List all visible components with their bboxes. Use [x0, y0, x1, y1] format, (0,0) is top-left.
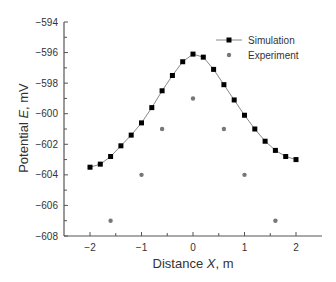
simulation-point	[118, 143, 123, 148]
simulation-point	[98, 162, 103, 167]
experiment-point	[222, 127, 226, 131]
experiment-point	[191, 96, 195, 100]
experiment-point	[273, 219, 277, 223]
y-tick-label: −604	[35, 169, 58, 180]
experiment-point	[160, 127, 164, 131]
x-tick-label: −1	[136, 242, 148, 253]
simulation-point	[129, 133, 134, 138]
simulation-point	[221, 82, 226, 87]
y-tick-label: −596	[35, 47, 58, 58]
y-tick-label: −602	[35, 139, 58, 150]
simulation-point	[252, 127, 257, 132]
experiment-point	[242, 173, 246, 177]
simulation-point	[263, 139, 268, 144]
legend-experiment-label: Experiment	[248, 50, 299, 61]
simulation-point	[160, 88, 165, 93]
simulation-point	[170, 73, 175, 78]
simulation-point	[273, 148, 278, 153]
experiment-point	[108, 219, 112, 223]
simulation-point	[108, 154, 113, 159]
y-tick-label: −608	[35, 231, 58, 242]
simulation-point	[88, 165, 93, 170]
potential-distance-chart: −594−596−598−600−602−604−606−608−2−1012 …	[0, 0, 336, 282]
legend-simulation-label: Simulation	[248, 35, 295, 46]
simulation-point	[180, 59, 185, 64]
y-tick-label: −598	[35, 78, 58, 89]
simulation-point	[283, 154, 288, 159]
legend-simulation-marker	[227, 38, 232, 43]
legend: SimulationExperiment	[216, 35, 299, 61]
simulation-point	[201, 55, 206, 60]
simulation-point	[149, 105, 154, 110]
y-tick-label: −606	[35, 200, 58, 211]
x-tick-label: 1	[242, 242, 248, 253]
x-axis-label: Distance X, m	[153, 256, 234, 271]
simulation-point	[139, 120, 144, 125]
experiment-point	[139, 173, 143, 177]
simulation-point	[242, 113, 247, 118]
x-tick-label: 0	[190, 242, 196, 253]
x-tick-label: 2	[293, 242, 299, 253]
y-tick-label: −600	[35, 108, 58, 119]
y-axis-label: Potential E, mV	[16, 83, 31, 173]
plot-area	[88, 52, 299, 223]
simulation-line	[90, 54, 296, 167]
simulation-point	[294, 157, 299, 162]
y-tick-label: −594	[35, 17, 58, 28]
simulation-point	[211, 67, 216, 72]
legend-experiment-marker	[227, 53, 231, 57]
simulation-point	[232, 97, 237, 102]
x-tick-label: −2	[84, 242, 96, 253]
simulation-point	[191, 52, 196, 57]
